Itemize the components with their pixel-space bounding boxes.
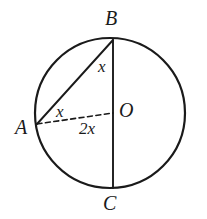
angle-label-at-o: 2x [79,120,95,137]
vertex-label-b: B [105,8,117,28]
radius-ao-dashed-line [37,113,113,124]
geometry-canvas [0,0,207,219]
vertex-label-o: O [119,100,133,120]
angle-label-at-b: x [98,58,106,75]
vertex-label-a: A [15,117,27,137]
geometry-diagram: B C A O x x 2x [0,0,207,219]
chord-ab-line [37,40,113,124]
angle-label-at-a: x [56,103,64,120]
vertex-label-c: C [103,193,116,213]
